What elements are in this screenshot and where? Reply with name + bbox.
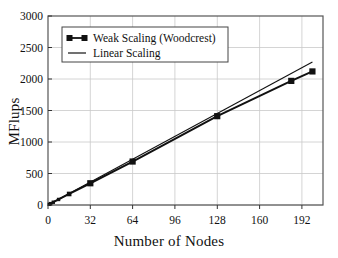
x-tick-label: 192 <box>293 214 311 226</box>
x-axis-title: Number of Nodes <box>0 233 338 250</box>
y-tick-label: 3000 <box>20 10 43 22</box>
legend-label-linear-scaling: Linear Scaling <box>93 47 161 60</box>
scaling-line-chart: 050010001500200025003000 032649612816019… <box>0 0 338 258</box>
data-point-marker <box>87 180 93 186</box>
y-tick-label: 1500 <box>20 105 43 117</box>
data-point-marker <box>130 158 136 164</box>
y-axis-title: MFlups <box>6 72 23 172</box>
y-tick-label: 500 <box>26 168 44 180</box>
data-point-marker <box>67 192 72 197</box>
x-tick-label: 0 <box>45 214 51 226</box>
y-tick-label: 1000 <box>20 136 43 148</box>
legend-marker-square-right <box>82 35 88 41</box>
legend-label-weak-scaling: Weak Scaling (Woodcrest) <box>93 32 216 45</box>
legend-marker-square-left <box>67 35 73 41</box>
x-tick-label: 160 <box>251 214 269 226</box>
data-point-marker <box>52 201 55 204</box>
y-tick-label: 2000 <box>20 73 43 85</box>
data-point-marker <box>57 198 60 201</box>
y-tick-label: 0 <box>37 199 43 211</box>
chart-container: 050010001500200025003000 032649612816019… <box>0 0 338 258</box>
x-tick-label: 64 <box>127 214 139 226</box>
x-tick-label: 96 <box>169 214 181 226</box>
x-tick-label: 32 <box>85 214 97 226</box>
data-point-marker <box>309 68 315 74</box>
y-tick-label: 2500 <box>20 42 43 54</box>
chart-legend: Weak Scaling (Woodcrest) Linear Scaling <box>62 27 228 62</box>
x-tick-label: 128 <box>209 214 227 226</box>
data-point-marker <box>288 78 294 84</box>
data-point-marker <box>214 113 220 119</box>
